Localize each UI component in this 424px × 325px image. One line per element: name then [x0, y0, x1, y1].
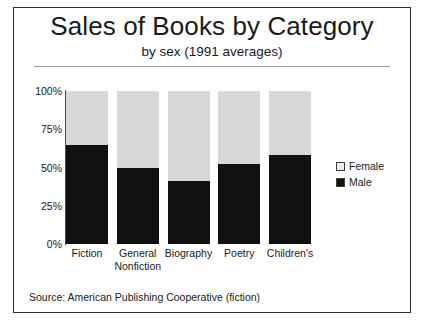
- chart-figure: Sales of Books by Category by sex (1991 …: [0, 0, 424, 325]
- source-note: Source: American Publishing Cooperative …: [29, 291, 260, 303]
- legend-label: Female: [349, 160, 384, 172]
- bar-segment-male[interactable]: [269, 155, 311, 244]
- legend-item[interactable]: Male: [336, 174, 384, 190]
- plot-area: [66, 91, 311, 244]
- bar-segment-male[interactable]: [117, 168, 159, 245]
- bar-column[interactable]: [218, 91, 260, 244]
- bar-segment-male[interactable]: [218, 164, 260, 244]
- x-axis-label: Poetry: [218, 247, 260, 272]
- y-axis-tick: 100%: [35, 86, 62, 96]
- chart-legend: FemaleMale: [336, 158, 384, 190]
- legend-item[interactable]: Female: [336, 158, 384, 174]
- bar-column[interactable]: [117, 91, 159, 244]
- legend-swatch-male: [336, 178, 345, 187]
- x-axis-label: GeneralNonfiction: [117, 247, 159, 272]
- y-axis-tick: 50%: [41, 163, 62, 173]
- bar-segment-female[interactable]: [269, 91, 311, 155]
- bar-segment-male[interactable]: [66, 145, 108, 244]
- x-axis-labels: FictionGeneralNonfictionBiographyPoetryC…: [66, 247, 311, 272]
- y-axis-tick: 25%: [41, 201, 62, 211]
- bar-column[interactable]: [269, 91, 311, 244]
- x-axis-label: Fiction: [66, 247, 108, 272]
- y-axis-tick: 75%: [41, 124, 62, 134]
- bar-segment-male[interactable]: [168, 181, 210, 244]
- bar-segment-female[interactable]: [117, 91, 159, 168]
- x-axis-label: Biography: [168, 247, 210, 272]
- bar-column[interactable]: [168, 91, 210, 244]
- bar-segment-female[interactable]: [66, 91, 108, 145]
- legend-swatch-female: [336, 162, 345, 171]
- bar-segment-female[interactable]: [168, 91, 210, 181]
- y-axis-ticks: 0%25%50%75%100%: [0, 91, 62, 244]
- bar-column[interactable]: [66, 91, 108, 244]
- legend-label: Male: [349, 176, 372, 188]
- bar-group: [66, 91, 311, 244]
- bar-segment-female[interactable]: [218, 91, 260, 164]
- x-axis-label: Children's: [269, 247, 311, 272]
